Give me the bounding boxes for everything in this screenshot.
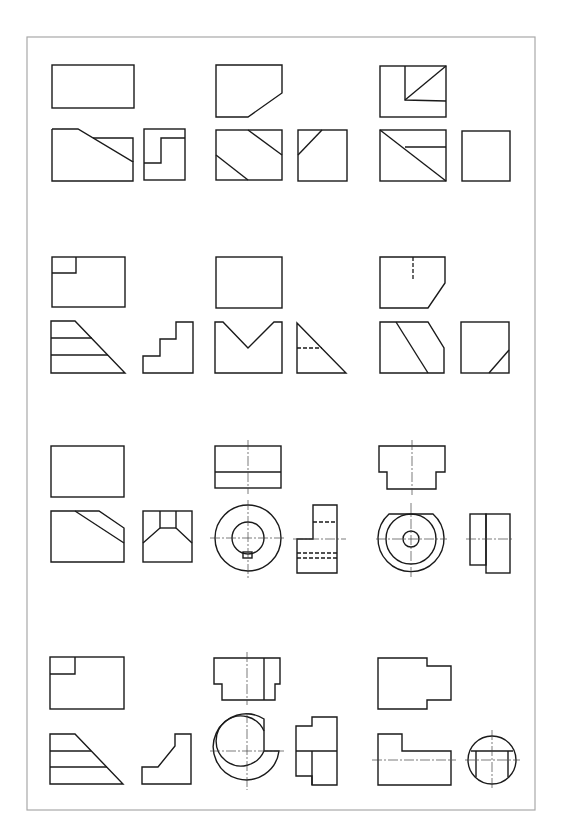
top-view [50, 657, 124, 709]
problem-1 [52, 65, 185, 181]
side-view [143, 511, 192, 562]
front-view [372, 734, 456, 785]
top-view [216, 65, 282, 117]
side-view [296, 717, 337, 785]
front-view [210, 500, 286, 578]
top-view [214, 652, 280, 705]
drawing-sheet [0, 0, 561, 839]
side-view [144, 129, 185, 180]
front-view [50, 734, 123, 784]
top-view [215, 440, 281, 494]
problem-5 [215, 257, 346, 373]
side-view [465, 730, 520, 790]
problem-6 [380, 257, 509, 373]
sheet-border [27, 37, 535, 810]
front-view [216, 130, 282, 180]
problem-3 [380, 66, 510, 181]
front-view [210, 713, 285, 790]
side-view [298, 130, 347, 181]
side-view [293, 505, 346, 573]
side-view [143, 322, 193, 373]
problem-10 [50, 657, 191, 784]
side-view [297, 323, 346, 373]
top-view [379, 440, 445, 495]
front-view [380, 322, 444, 373]
front-view [52, 129, 133, 181]
top-view [52, 257, 125, 307]
top-view [216, 257, 282, 308]
front-view [51, 321, 125, 373]
side-view [461, 322, 509, 373]
problem-8 [210, 440, 346, 578]
top-view [380, 257, 445, 308]
side-view [462, 131, 510, 181]
top-view [380, 66, 446, 117]
side-view [466, 514, 514, 573]
top-view [378, 658, 451, 709]
problem-11 [210, 652, 337, 790]
problem-4 [51, 257, 193, 373]
front-view [376, 503, 447, 577]
problem-12 [372, 658, 520, 790]
problem-7 [51, 446, 192, 562]
problem-2 [216, 65, 347, 181]
front-view [215, 322, 282, 373]
side-view [142, 734, 191, 784]
problem-9 [376, 440, 514, 577]
top-view [52, 65, 134, 108]
front-view [380, 130, 446, 181]
front-view [51, 511, 124, 562]
top-view [51, 446, 124, 497]
